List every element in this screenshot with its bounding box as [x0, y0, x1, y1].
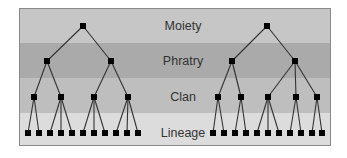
lineage-node: [135, 130, 141, 136]
lineage-node: [287, 130, 293, 136]
clan-node: [265, 94, 271, 100]
lineage-node: [221, 130, 227, 136]
lineage-node: [254, 130, 260, 136]
lineage-node: [265, 130, 271, 136]
phratry-node: [229, 58, 235, 64]
clan-node: [293, 94, 299, 100]
lineage-node: [298, 130, 304, 136]
phratry-node: [292, 58, 298, 64]
lineage-node: [113, 130, 119, 136]
label-phratry: Phratry: [163, 54, 204, 68]
clan-node: [238, 94, 244, 100]
lineage-node: [210, 130, 216, 136]
clan-node: [91, 94, 97, 100]
lineage-node: [36, 130, 42, 136]
lineage-node: [91, 130, 97, 136]
clan-node: [31, 94, 37, 100]
lineage-node: [243, 130, 249, 136]
lineage-node: [309, 130, 315, 136]
phratry-node: [44, 58, 50, 64]
moiety-node: [80, 23, 86, 29]
lineage-node: [25, 130, 31, 136]
lineage-node: [47, 130, 53, 136]
lineage-node: [58, 130, 64, 136]
clan-node: [125, 94, 131, 100]
lineage-node: [276, 130, 282, 136]
label-moiety: Moiety: [165, 19, 203, 33]
lineage-node: [124, 130, 130, 136]
lineage-node: [232, 130, 238, 136]
moiety-node: [264, 23, 270, 29]
clan-node: [215, 94, 221, 100]
kinship-hierarchy-diagram: Moiety Phratry Clan Lineage: [0, 0, 347, 158]
clan-node: [314, 94, 320, 100]
lineage-node: [319, 130, 325, 136]
label-clan: Clan: [170, 90, 196, 104]
lineage-node: [80, 130, 86, 136]
phratry-node: [108, 58, 114, 64]
lineage-node: [102, 130, 108, 136]
label-lineage: Lineage: [161, 126, 206, 140]
clan-node: [58, 94, 64, 100]
lineage-node: [69, 130, 75, 136]
